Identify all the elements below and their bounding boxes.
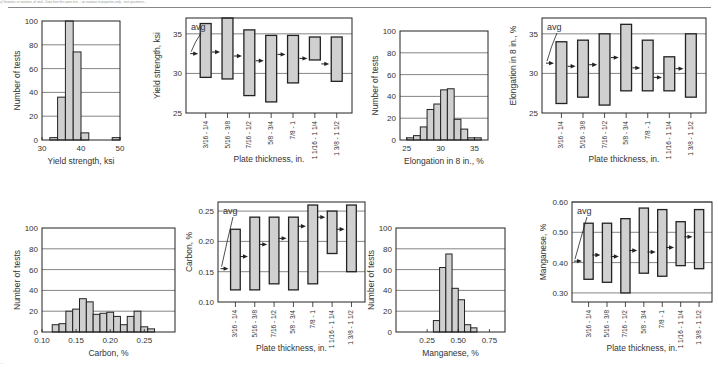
x-tick-label: 0.25 xyxy=(137,336,153,345)
category-label: 1 3/8 - 1 1/2 xyxy=(347,310,354,345)
range-bar xyxy=(331,37,342,81)
histogram-bar xyxy=(433,321,439,332)
y-tick-label: 80 xyxy=(29,41,38,50)
y-tick-label: 100 xyxy=(379,224,393,233)
y-tick-label: 40 xyxy=(29,286,38,295)
yield-range-chart: 2530353/16 - 1/45/16 - 3/87/16 - 1/25/8 … xyxy=(152,18,352,164)
y-tick-label: 80 xyxy=(383,245,392,254)
histogram-bar xyxy=(120,325,127,332)
category-label: 1 3/8 - 1 1/2 xyxy=(687,121,694,156)
y-tick-label: 60 xyxy=(387,71,396,80)
y-tick-label: 80 xyxy=(29,245,38,254)
figure-canvas: 020406080100304050Yield strength, ksiNum… xyxy=(0,0,718,367)
histogram-bar xyxy=(114,316,121,332)
avg-arrow-icon xyxy=(614,55,619,59)
category-label: 7/8 - 1 xyxy=(289,121,296,140)
avg-annotation: avg xyxy=(191,22,206,32)
range-bar xyxy=(658,210,667,277)
histogram-bar xyxy=(80,299,87,332)
category-label: 3/16 - 1/4 xyxy=(557,121,564,149)
range-bar xyxy=(621,219,630,293)
category-label: 3/16 - 1/4 xyxy=(202,121,209,149)
histogram-bar xyxy=(100,313,107,332)
histogram-bar xyxy=(440,268,446,332)
avg-arrow-icon xyxy=(262,242,267,246)
category-label: 1 3/8 - 1 1/2 xyxy=(695,310,702,345)
avg-arrow-icon xyxy=(669,245,674,249)
avg-arrow-icon xyxy=(224,266,229,270)
range-bar xyxy=(584,223,593,279)
range-bar xyxy=(642,40,653,91)
histogram-bar xyxy=(420,127,427,140)
y-tick-label: 0.15 xyxy=(198,268,214,277)
carbon-hist-chart: 0204060801000.100.150.200.25Carbon, %Num… xyxy=(12,224,175,358)
y-tick-label: 20 xyxy=(29,307,38,316)
category-label: 5/16 - 3/8 xyxy=(603,310,610,338)
x-axis-label: Plate thickness, in. xyxy=(589,154,660,164)
category-label: 5/16 - 3/8 xyxy=(224,121,231,149)
y-axis-label: Number of tests xyxy=(370,56,380,116)
histogram-bar xyxy=(73,52,81,140)
x-axis-label: Plate thickness, in. xyxy=(607,343,678,353)
histogram-bar xyxy=(465,325,471,332)
x-tick-label: 0.50 xyxy=(450,336,466,345)
range-bar xyxy=(695,210,704,269)
avg-arrow-icon xyxy=(215,50,220,54)
avg-arrow-icon xyxy=(320,215,325,219)
x-tick-label: 30 xyxy=(436,144,445,153)
range-bar xyxy=(222,18,233,79)
avg-arrow-icon xyxy=(259,59,264,63)
y-tick-label: 20 xyxy=(29,112,38,121)
range-bar xyxy=(347,205,357,272)
histogram-bar xyxy=(434,104,441,140)
x-axis-label: Yield strength, ksi xyxy=(48,156,115,166)
y-axis-label: Number of tests xyxy=(366,250,376,310)
x-tick-label: 35 xyxy=(470,144,479,153)
histogram-bar xyxy=(458,300,464,332)
x-tick-label: 0.75 xyxy=(482,336,498,345)
category-label: 3/16 - 1/4 xyxy=(231,310,238,338)
y-tick-label: 30 xyxy=(529,69,538,78)
y-axis-label: Number of tests xyxy=(12,250,22,310)
range-bar xyxy=(266,35,277,102)
range-bar xyxy=(309,37,320,60)
x-tick-label: 0.20 xyxy=(102,336,118,345)
y-tick-label: 0 xyxy=(388,328,393,337)
x-tick-label: 50 xyxy=(116,144,125,153)
histogram-bar xyxy=(441,90,448,140)
x-tick-label: 30 xyxy=(38,144,47,153)
avg-arrow-icon xyxy=(688,235,693,239)
avg-arrow-icon xyxy=(651,250,656,254)
histogram-bar xyxy=(427,109,434,140)
histogram-bar xyxy=(127,316,134,332)
histogram-bar xyxy=(52,325,59,332)
avg-arrow-icon xyxy=(243,254,248,258)
y-tick-label: 60 xyxy=(29,65,38,74)
category-label: 5/8 - 3/4 xyxy=(640,310,647,334)
y-tick-label: 100 xyxy=(25,224,39,233)
category-label: 5/8 - 3/4 xyxy=(267,121,274,145)
range-bar xyxy=(676,222,685,266)
category-label: 7/16 - 1/2 xyxy=(621,310,628,338)
manganese-hist-chart: 0204060801000.250.500.75Manganese, %Numb… xyxy=(366,224,505,358)
histogram-bar xyxy=(452,288,458,332)
carbon-range-chart: 0.100.150.200.253/16 - 1/45/16 - 3/87/16… xyxy=(184,202,365,353)
category-label: 5/8 - 3/4 xyxy=(289,310,296,334)
y-tick-label: 25 xyxy=(173,109,182,118)
range-bar xyxy=(289,217,299,290)
histogram-bar xyxy=(454,119,461,140)
y-tick-label: 0.60 xyxy=(552,198,568,207)
avg-arrow-icon xyxy=(302,56,307,60)
range-bar xyxy=(250,217,260,290)
avg-arrow-icon xyxy=(657,75,662,79)
x-axis-label: Manganese, % xyxy=(422,348,479,358)
elongation-range-chart: 2530353/16 - 1/45/16 - 3/87/16 - 1/25/8 … xyxy=(508,18,706,164)
y-tick-label: 20 xyxy=(383,307,392,316)
avg-arrow-icon xyxy=(340,227,345,231)
range-bar xyxy=(556,42,567,104)
y-tick-label: 80 xyxy=(387,49,396,58)
range-bar xyxy=(327,211,337,253)
category-label: 1 1/16 - 1 1/4 xyxy=(677,310,684,349)
histogram-bar xyxy=(73,309,80,332)
histogram-bar xyxy=(81,133,89,140)
